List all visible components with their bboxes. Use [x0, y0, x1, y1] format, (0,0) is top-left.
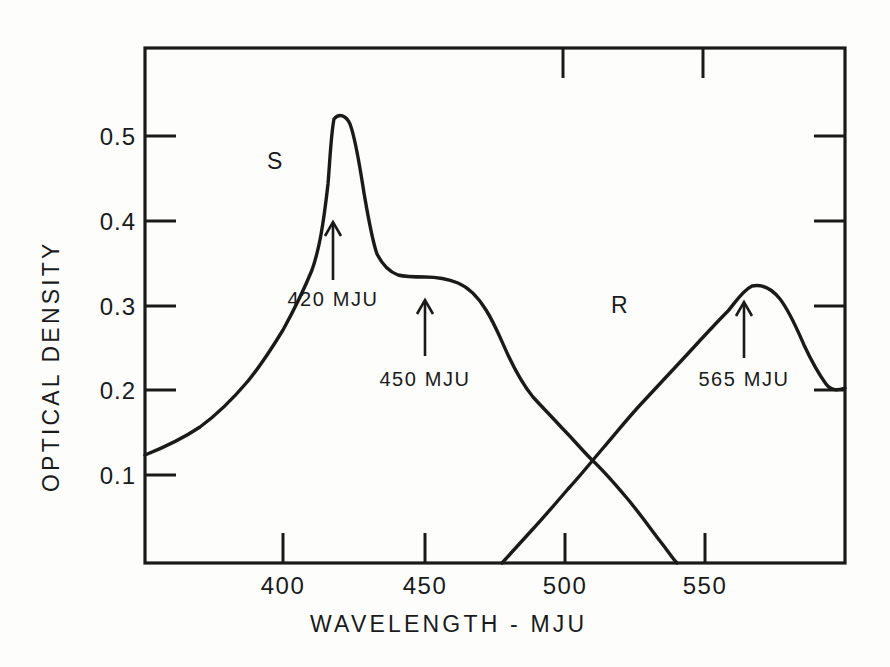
curve-s — [145, 116, 677, 563]
y-tick-label-0.2: 0.2 — [66, 377, 136, 405]
series-label-r: R — [611, 292, 629, 319]
annotation-565: 565 MJU — [684, 368, 804, 391]
y-tick-label-0.3: 0.3 — [66, 293, 136, 321]
plot-canvas — [0, 0, 890, 667]
arrow-565 — [736, 302, 752, 358]
x-tick-label-550: 550 — [665, 572, 745, 600]
x-tick-label-450: 450 — [385, 572, 465, 600]
y-axis-title: OPTICAL DENSITY — [38, 240, 65, 492]
annotation-420: 420 MJU — [273, 288, 393, 311]
y-tick-label-0.1: 0.1 — [66, 462, 136, 490]
y-tick-label-0.5: 0.5 — [66, 123, 136, 151]
axes-border — [145, 48, 845, 563]
x-tick-label-400: 400 — [243, 572, 323, 600]
x-axis-ticks-top — [563, 48, 703, 78]
x-axis-ticks-bottom — [283, 533, 705, 563]
y-axis-ticks-right — [814, 136, 845, 390]
plot-frame — [145, 48, 845, 563]
spectral-absorption-figure: 0.5 0.4 0.3 0.2 0.1 400 450 500 550 OPTI… — [0, 0, 890, 667]
x-axis-title: WAVELENGTH - MJU — [310, 611, 587, 638]
series-label-s: S — [267, 148, 283, 175]
x-tick-label-500: 500 — [525, 572, 605, 600]
annotation-450: 450 MJU — [365, 368, 485, 391]
y-axis-ticks-left — [145, 136, 176, 475]
y-tick-label-0.4: 0.4 — [66, 208, 136, 236]
arrow-420 — [325, 222, 341, 280]
arrow-450 — [417, 300, 433, 356]
curve-r — [502, 286, 845, 563]
